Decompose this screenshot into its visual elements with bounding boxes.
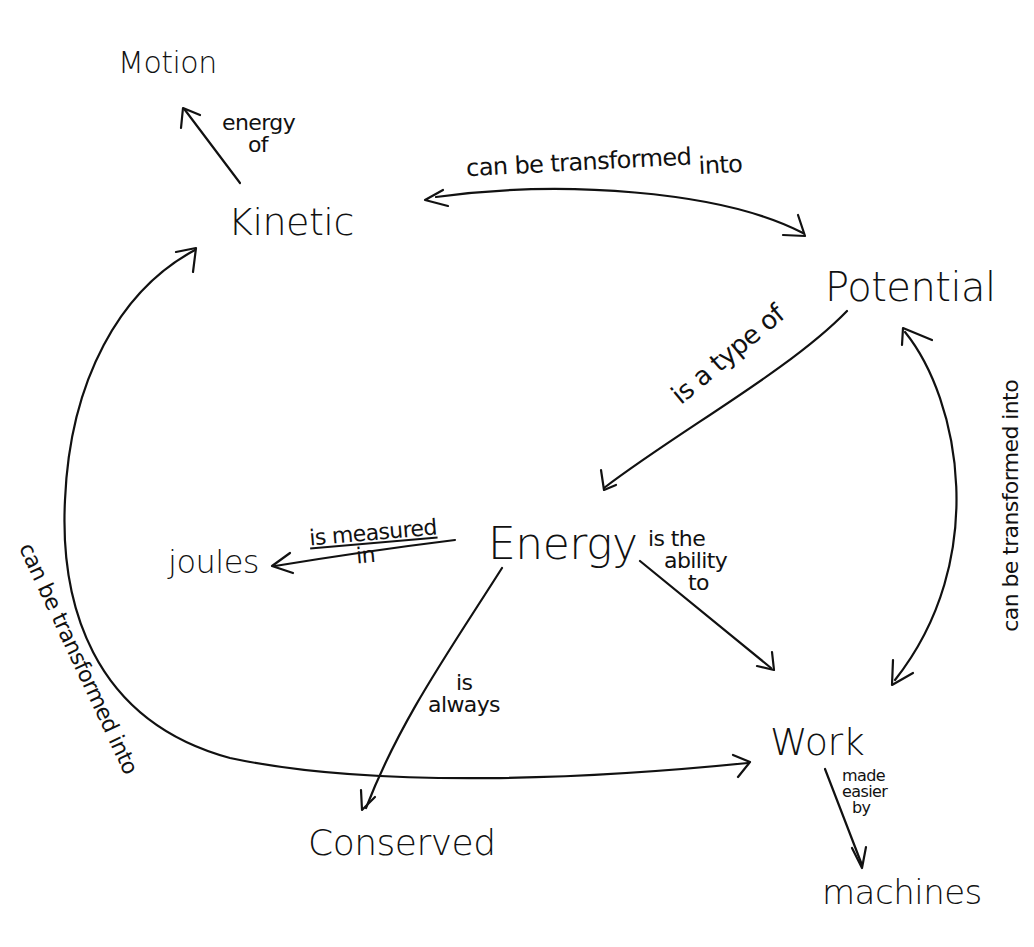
link-label-potential-work: can be transformed into (1000, 380, 1022, 632)
node-energy: Energy (488, 518, 638, 569)
node-machines: machines (822, 872, 982, 912)
node-kinetic: Kinetic (228, 200, 354, 244)
link-label-line: into (698, 150, 743, 180)
arrow-potential-work (895, 332, 956, 680)
arrow-kinetic-potential (436, 189, 803, 233)
arrow-work-kinetic (64, 250, 748, 778)
link-label-line: of (222, 134, 295, 156)
link-label-energy-of: energy of (222, 112, 295, 156)
link-label-line: always (428, 694, 500, 716)
link-label-line: is the (648, 528, 727, 550)
arrowhead (902, 328, 932, 345)
node-motion: Motion (118, 45, 217, 80)
link-label-ability-to: is the ability to (648, 528, 727, 594)
node-potential: Potential (825, 264, 996, 310)
link-label-line: by (842, 800, 887, 816)
link-label-made-easier-by: made easier by (842, 768, 887, 816)
node-joules: joules (168, 543, 259, 581)
arrowhead (733, 755, 750, 777)
link-label-is-always: is always (428, 672, 500, 716)
link-label-line: to (648, 572, 727, 594)
arrowhead (892, 660, 913, 685)
link-label-line: ability (648, 550, 727, 572)
node-work: Work (770, 720, 864, 764)
link-label-line: is (428, 672, 500, 694)
link-label-line: energy (222, 112, 295, 134)
node-conserved: Conserved (308, 822, 496, 863)
